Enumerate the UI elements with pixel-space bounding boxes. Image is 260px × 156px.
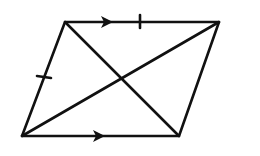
diagram-canvas — [0, 0, 260, 156]
parallelogram-figure — [0, 0, 260, 156]
tick-mark-left-side — [37, 76, 51, 78]
